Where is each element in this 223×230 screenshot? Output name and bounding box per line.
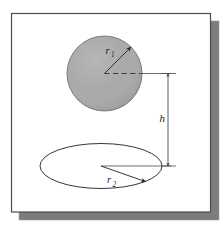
- label-disk-radius-subscript: 2: [112, 181, 116, 189]
- geometry-diagram: r 1 r 2 h: [0, 0, 223, 230]
- figure-container: r 1 r 2 h: [0, 0, 223, 230]
- label-height: h: [160, 112, 166, 124]
- label-sphere-radius-subscript: 1: [111, 51, 115, 59]
